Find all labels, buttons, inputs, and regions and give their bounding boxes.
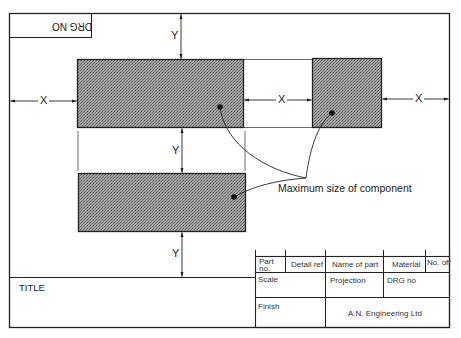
- cell-detail-ref: Detail ref: [291, 261, 323, 269]
- cell-material: Material: [392, 261, 420, 269]
- component-top-right: [313, 59, 382, 128]
- dimension-x-middle-label: X: [276, 94, 287, 105]
- cell-projection: Projection: [330, 277, 366, 285]
- drawing-sheet: [0, 0, 461, 338]
- cell-no-off: No. off: [427, 259, 450, 267]
- dimension-y-top-label: Y: [169, 30, 180, 41]
- drg-no-text: DRG NO: [52, 21, 92, 31]
- leader-dot: [217, 104, 223, 110]
- cell-company: A.N. Engineering Ltd: [348, 310, 422, 318]
- cell-scale: Scale: [258, 276, 278, 284]
- leader-dot: [231, 194, 237, 200]
- cell-drg-no: DRG no: [387, 277, 416, 285]
- leader-dot: [329, 110, 335, 116]
- cell-part-no: Part no.: [259, 258, 283, 272]
- annotation-max-size: Maximum size of component: [278, 183, 412, 193]
- dimension-x-right-label: X: [413, 93, 424, 104]
- dimension-y-bottom-label: Y: [170, 248, 181, 259]
- component-top-left: [78, 60, 244, 128]
- drg-no-label: DRG NO: [52, 21, 92, 31]
- dimension-x-left-label: X: [38, 95, 49, 106]
- dimension-y-middle-label: Y: [170, 145, 181, 156]
- cell-finish: Finish: [258, 303, 279, 311]
- title-label: TITLE: [19, 283, 45, 293]
- cell-name-of-part: Name of part: [332, 261, 378, 269]
- component-bottom: [79, 174, 246, 232]
